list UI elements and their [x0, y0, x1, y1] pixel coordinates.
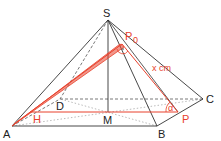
label-length-x: x cm	[152, 63, 171, 73]
label-p: P	[182, 113, 189, 125]
label-a: A	[3, 128, 11, 140]
label-s: S	[103, 7, 110, 19]
label-p0-subscript: 0	[133, 35, 138, 45]
label-p0: P	[125, 30, 132, 42]
label-h: H	[33, 113, 41, 125]
label-c: C	[206, 93, 214, 105]
right-angle-dot	[122, 48, 124, 50]
label-alpha: α	[168, 103, 173, 113]
line-p0p	[122, 44, 178, 112]
label-b: B	[158, 128, 165, 140]
pyramid-diagram: S A B C D M H P P 0 x cm α	[0, 0, 221, 141]
label-m: M	[103, 114, 112, 126]
edge-sc	[108, 20, 203, 99]
label-d: D	[56, 100, 64, 112]
diagram-canvas: S A B C D M H P P 0 x cm α	[0, 0, 221, 141]
